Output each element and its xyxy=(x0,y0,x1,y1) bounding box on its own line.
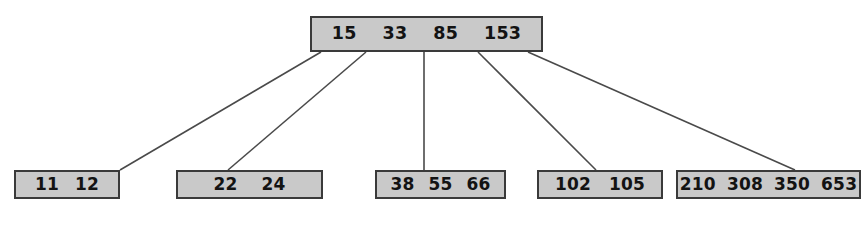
node-leaf-3[interactable]: 38 55 66 xyxy=(375,170,506,199)
key: 55 xyxy=(428,176,452,193)
node-root-keys: 15 33 85 153 xyxy=(312,18,541,50)
key: 350 xyxy=(774,176,810,193)
node-leaf-2-keys: 22 24 xyxy=(178,172,321,197)
key: 15 xyxy=(332,25,357,43)
key: 22 xyxy=(213,176,237,193)
key: 38 xyxy=(390,176,414,193)
key: 653 xyxy=(821,176,857,193)
key: 102 xyxy=(555,176,591,193)
key: 24 xyxy=(262,176,286,193)
node-leaf-3-keys: 38 55 66 xyxy=(377,172,504,197)
edge-root-to-leaf4 xyxy=(478,52,596,170)
edge-root-to-leaf2 xyxy=(228,52,366,170)
key: 153 xyxy=(484,25,521,43)
node-leaf-5-keys: 210 308 350 653 xyxy=(678,172,859,197)
node-leaf-1[interactable]: 11 12 xyxy=(14,170,120,199)
edge-root-to-leaf1 xyxy=(120,52,321,170)
edge-root-to-leaf5 xyxy=(528,52,795,170)
node-leaf-4-keys: 102 105 xyxy=(539,172,661,197)
btree-diagram: 15 33 85 153 11 12 22 24 38 55 66 102 10… xyxy=(0,0,867,225)
node-root[interactable]: 15 33 85 153 xyxy=(310,16,543,52)
key: 12 xyxy=(75,176,99,193)
key: 308 xyxy=(727,176,763,193)
node-leaf-1-keys: 11 12 xyxy=(16,172,118,197)
key: 85 xyxy=(433,25,458,43)
key: 66 xyxy=(467,176,491,193)
key: 105 xyxy=(609,176,645,193)
node-leaf-2[interactable]: 22 24 xyxy=(176,170,323,199)
node-leaf-5[interactable]: 210 308 350 653 xyxy=(676,170,861,199)
key: 210 xyxy=(680,176,716,193)
node-leaf-4[interactable]: 102 105 xyxy=(537,170,663,199)
key: 11 xyxy=(35,176,59,193)
key: 33 xyxy=(383,25,408,43)
